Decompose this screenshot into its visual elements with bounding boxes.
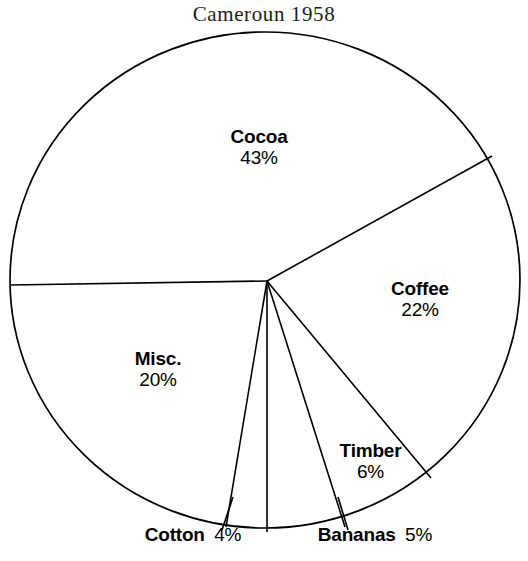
slice-label-cotton: Cotton 4% (108, 524, 278, 545)
slice-label-cotton-value: 4% (214, 524, 241, 545)
slice-label-cocoa: Cocoa 43% (184, 126, 334, 169)
slice-label-bananas-value: 5% (405, 524, 432, 545)
pie-chart-figure: Cameroun 1958 Cocoa 43% Coffe (0, 0, 528, 561)
slice-label-misc-value: 20% (88, 369, 228, 390)
slice-label-timber-name: Timber (308, 440, 433, 461)
slice-label-coffee: Coffee 22% (350, 278, 490, 321)
slice-label-bananas: Bananas 5% (280, 524, 470, 545)
slice-label-cocoa-value: 43% (184, 147, 334, 168)
slice-label-coffee-value: 22% (350, 299, 490, 320)
slice-label-misc: Misc. 20% (88, 348, 228, 391)
slice-label-bananas-name: Bananas (318, 524, 396, 545)
slice-label-coffee-name: Coffee (350, 278, 490, 299)
slice-label-cotton-name: Cotton (145, 524, 205, 545)
slice-label-misc-name: Misc. (88, 348, 228, 369)
slice-label-cocoa-name: Cocoa (184, 126, 334, 147)
slice-label-timber: Timber 6% (308, 440, 433, 483)
slice-label-timber-value: 6% (308, 461, 433, 482)
